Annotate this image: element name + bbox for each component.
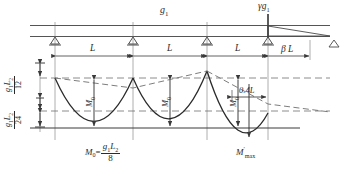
uniform-load-label: g1 [160, 5, 168, 18]
ordinate-upper-denominator: 12 [15, 76, 23, 94]
bending-moment-diagram: g1 γg1 L L L β L g1L2 12 g1L2 24 M0 M0 M… [0, 0, 355, 176]
ordinate-upper-fraction: g1L2 12 [4, 76, 23, 94]
ordinate-lower-denominator: 24 [15, 111, 23, 129]
uniform-load-subscript: 1 [165, 10, 168, 17]
span-moment-label-1: M0 [85, 89, 97, 115]
span-label-2: L [167, 44, 172, 54]
formula-expression: M0=g1L28 [85, 142, 120, 163]
max-moment-prime: ′ [244, 146, 245, 152]
span-label-1: L [90, 44, 95, 54]
ordinate-lower-fraction: g1L2 24 [4, 111, 23, 129]
legend-support-icon [329, 40, 339, 47]
formula-fraction: g1L28 [101, 142, 121, 163]
ordinate-lower-label: g1L2 24 [4, 95, 38, 129]
ordinate-upper-label: g1L2 12 [4, 60, 38, 94]
span-label-3: L [235, 44, 240, 54]
cantilever-span-label: β L [281, 45, 293, 55]
diagram-canvas [0, 0, 355, 176]
span-moment-label-2: M0 [161, 89, 173, 115]
formula-denominator: 8 [101, 154, 121, 163]
max-moment-subscript: max [245, 153, 256, 159]
span-moment-formula: M0=g1L28 [85, 142, 120, 163]
end-load-label: γg1 [258, 2, 270, 13]
end-load-subscript: 1 [267, 6, 270, 13]
beam-group [30, 26, 330, 37]
formula-lhs: M [85, 147, 93, 157]
max-moment-label: M′max [236, 146, 255, 159]
projection-lines [40, 14, 310, 140]
inflection-distance-label: 0.4L [239, 86, 254, 95]
